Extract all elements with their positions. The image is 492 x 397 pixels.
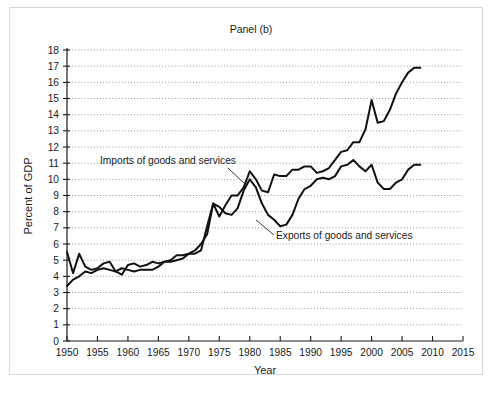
xtick-label-1960: 1960 xyxy=(117,347,140,358)
xtick-label-2015: 2015 xyxy=(452,347,475,358)
series-line-imports xyxy=(67,68,420,286)
xtick-label-1980: 1980 xyxy=(238,347,261,358)
ytick-label-5: 5 xyxy=(53,255,59,266)
chart-title: Panel (b) xyxy=(230,23,273,35)
x-axis-title: Year xyxy=(254,364,277,376)
ytick-label-1: 1 xyxy=(53,319,59,330)
annotation-exports-label: Exports of goods and services xyxy=(276,230,412,241)
xtick-label-2010: 2010 xyxy=(421,347,444,358)
ytick-label-6: 6 xyxy=(53,239,59,250)
ytick-label-14: 14 xyxy=(48,109,60,120)
ytick-label-17: 17 xyxy=(48,61,60,72)
ytick-label-13: 13 xyxy=(48,125,60,136)
xtick-label-1985: 1985 xyxy=(269,347,292,358)
figure-container: 0123456789101112131415161718195019551960… xyxy=(0,0,492,397)
ytick-label-8: 8 xyxy=(53,206,59,217)
xtick-label-1975: 1975 xyxy=(208,347,231,358)
xtick-label-1955: 1955 xyxy=(86,347,109,358)
ytick-label-7: 7 xyxy=(53,222,59,233)
panel-b-line-chart: 0123456789101112131415161718195019551960… xyxy=(0,0,492,397)
annotation-imports-leader xyxy=(228,168,247,186)
ytick-label-15: 15 xyxy=(48,93,60,104)
ytick-label-3: 3 xyxy=(53,287,59,298)
ytick-label-2: 2 xyxy=(53,303,59,314)
xtick-label-1965: 1965 xyxy=(147,347,170,358)
ytick-label-0: 0 xyxy=(53,336,59,347)
ytick-label-9: 9 xyxy=(53,190,59,201)
ytick-label-4: 4 xyxy=(53,271,59,282)
ytick-label-16: 16 xyxy=(48,77,60,88)
ytick-label-18: 18 xyxy=(48,45,60,56)
ytick-label-11: 11 xyxy=(48,158,59,169)
xtick-label-2000: 2000 xyxy=(360,347,383,358)
xtick-label-1950: 1950 xyxy=(56,347,79,358)
xtick-label-1995: 1995 xyxy=(330,347,353,358)
xtick-label-1990: 1990 xyxy=(299,347,322,358)
ytick-label-10: 10 xyxy=(48,174,60,185)
annotation-imports-label: Imports of goods and services xyxy=(100,155,236,166)
ytick-label-12: 12 xyxy=(48,142,60,153)
xtick-label-1970: 1970 xyxy=(178,347,201,358)
series-line-exports xyxy=(67,160,420,275)
y-axis-title: Percent of GDP xyxy=(22,157,34,234)
xtick-label-2005: 2005 xyxy=(391,347,414,358)
